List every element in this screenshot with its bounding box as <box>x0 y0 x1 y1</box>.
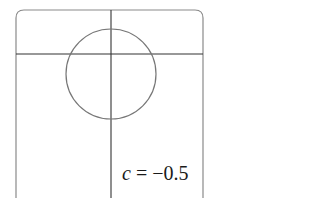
parameter-value: = −0.5 <box>131 162 189 184</box>
parameter-label: c = −0.5 <box>122 162 188 185</box>
parameter-variable: c <box>122 162 131 184</box>
